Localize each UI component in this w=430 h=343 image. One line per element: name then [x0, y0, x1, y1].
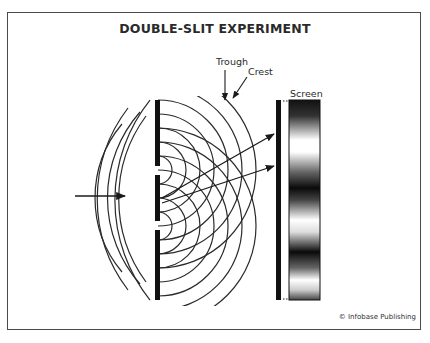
double-slit-diagram — [0, 0, 430, 343]
interference-pattern — [289, 100, 320, 300]
path-arrow-icon — [162, 166, 274, 203]
barrier — [155, 100, 160, 300]
path-arrow-icon — [162, 134, 274, 198]
screen-bar — [276, 100, 281, 300]
crest-pointer-icon — [233, 77, 247, 98]
incident-wavefronts — [95, 100, 150, 300]
